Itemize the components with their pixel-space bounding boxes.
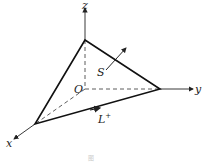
normal-vector xyxy=(106,48,126,70)
caption: 图 xyxy=(88,153,94,162)
y-label: y xyxy=(195,84,201,95)
x-axis xyxy=(14,124,35,139)
triangle-surface-diagram xyxy=(0,0,203,163)
curve-label: L+ xyxy=(98,113,111,125)
diagram: z y x O S L+ 图 xyxy=(0,0,203,163)
origin-label: O xyxy=(74,84,83,95)
x-label: x xyxy=(6,138,12,149)
z-label: z xyxy=(82,0,88,11)
surface-label: S xyxy=(97,67,105,78)
triangle-boundary xyxy=(35,40,160,124)
